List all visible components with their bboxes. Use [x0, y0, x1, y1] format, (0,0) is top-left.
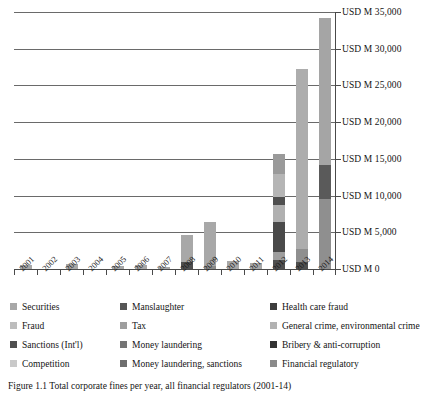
legend-item: Bribery & anti-corruption — [270, 340, 425, 350]
x-axis-tick — [83, 270, 84, 275]
y-axis-line — [335, 12, 336, 270]
y-axis-label: USD M 5,000 — [342, 227, 397, 237]
x-axis-tick — [106, 270, 107, 275]
bar-segment — [273, 197, 285, 205]
legend-swatch-icon — [120, 360, 127, 367]
bar-segment — [273, 174, 285, 196]
gridline — [14, 232, 336, 233]
legend-swatch-icon — [10, 360, 17, 367]
gridline — [14, 196, 336, 197]
legend-item: Fraud — [10, 321, 120, 331]
legend-swatch-icon — [10, 341, 17, 348]
y-axis-label: USD M 35,000 — [342, 7, 402, 17]
legend-swatch-icon — [120, 303, 127, 310]
gridline — [14, 49, 336, 50]
gridline — [14, 12, 336, 13]
legend-item: Competition — [10, 359, 120, 369]
bar-2013 — [296, 69, 308, 269]
bar-2012 — [273, 154, 285, 269]
legend-label: Tax — [132, 321, 146, 331]
legend-item: Sanctions (Int'l) — [10, 340, 120, 350]
bar-2014 — [319, 18, 331, 269]
legend-swatch-icon — [270, 360, 277, 367]
legend-swatch-icon — [120, 341, 127, 348]
gridline — [14, 122, 336, 123]
x-axis-tick — [313, 270, 314, 275]
chart-legend: SecuritiesManslaughterHealth care fraudF… — [10, 297, 425, 373]
chart-plot-area — [14, 12, 336, 270]
legend-swatch-icon — [270, 341, 277, 348]
legend-item: Money laundering — [120, 340, 270, 350]
legend-swatch-icon — [270, 303, 277, 310]
legend-label: Financial regulatory — [282, 359, 359, 369]
x-axis-tick — [244, 270, 245, 275]
legend-swatch-icon — [120, 322, 127, 329]
bar-segment — [319, 165, 331, 199]
x-axis-tick — [198, 270, 199, 275]
y-axis-label: USD M 15,000 — [342, 154, 402, 164]
legend-item: General crime, environmental crime — [270, 321, 425, 331]
legend-label: General crime, environmental crime — [282, 321, 420, 331]
legend-label: Bribery & anti-corruption — [282, 340, 380, 350]
legend-label: Money laundering — [132, 340, 202, 350]
x-axis-tick — [60, 270, 61, 275]
x-axis-tick — [37, 270, 38, 275]
legend-label: Health care fraud — [282, 302, 348, 312]
legend-label: Competition — [22, 359, 70, 369]
y-axis-label: USD M 0 — [342, 264, 380, 274]
x-axis-tick — [290, 270, 291, 275]
bar-segment — [273, 205, 285, 222]
x-axis-tick — [14, 270, 15, 275]
x-axis-tick — [129, 270, 130, 275]
legend-item: Tax — [120, 321, 270, 331]
legend-swatch-icon — [270, 322, 277, 329]
y-axis-label: USD M 25,000 — [342, 80, 402, 90]
x-axis-tick — [335, 270, 336, 275]
x-axis-tick — [221, 270, 222, 275]
legend-item: Health care fraud — [270, 302, 425, 312]
legend-item: Financial regulatory — [270, 359, 425, 369]
legend-item: Manslaughter — [120, 302, 270, 312]
bar-segment — [273, 154, 285, 175]
legend-swatch-icon — [10, 322, 17, 329]
gridline — [14, 159, 336, 160]
legend-label: Money laundering, sanctions — [132, 359, 242, 369]
bar-segment — [273, 222, 285, 252]
figure-container: USD M 0USD M 5,000USD M 10,000USD M 15,0… — [0, 0, 431, 399]
gridline — [14, 85, 336, 86]
legend-swatch-icon — [10, 303, 17, 310]
legend-item: Securities — [10, 302, 120, 312]
legend-label: Manslaughter — [132, 302, 184, 312]
legend-label: Sanctions (Int'l) — [22, 340, 83, 350]
legend-item: Money laundering, sanctions — [120, 359, 270, 369]
y-axis-label: USD M 10,000 — [342, 191, 402, 201]
x-axis-tick — [267, 270, 268, 275]
legend-label: Securities — [22, 302, 59, 312]
x-axis-tick — [175, 270, 176, 275]
legend-label: Fraud — [22, 321, 44, 331]
x-axis-tick — [152, 270, 153, 275]
bar-segment — [296, 69, 308, 250]
figure-caption: Figure 1.1 Total corporate fines per yea… — [8, 381, 428, 391]
y-axis-label: USD M 20,000 — [342, 117, 402, 127]
y-axis-label: USD M 30,000 — [342, 44, 402, 54]
bar-segment — [319, 18, 331, 165]
